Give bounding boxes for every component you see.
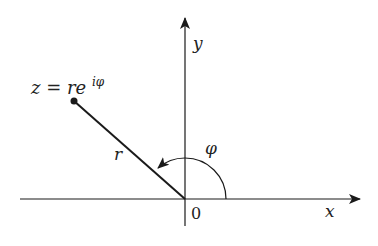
y-axis-label: y: [192, 33, 203, 53]
radius-label: r: [114, 144, 123, 164]
x-axis-label: x: [325, 201, 335, 221]
radius-segment: [74, 101, 185, 199]
point-z: [71, 98, 78, 105]
polar-diagram: y x 0 r φ z = re iφ: [0, 0, 378, 246]
angle-arc: [158, 158, 226, 199]
origin-label: 0: [191, 204, 201, 223]
point-label-exponent: iφ: [92, 75, 105, 89]
angle-label: φ: [205, 138, 217, 158]
point-label: z = re iφ: [30, 75, 105, 98]
point-label-base: z = re: [30, 77, 86, 98]
